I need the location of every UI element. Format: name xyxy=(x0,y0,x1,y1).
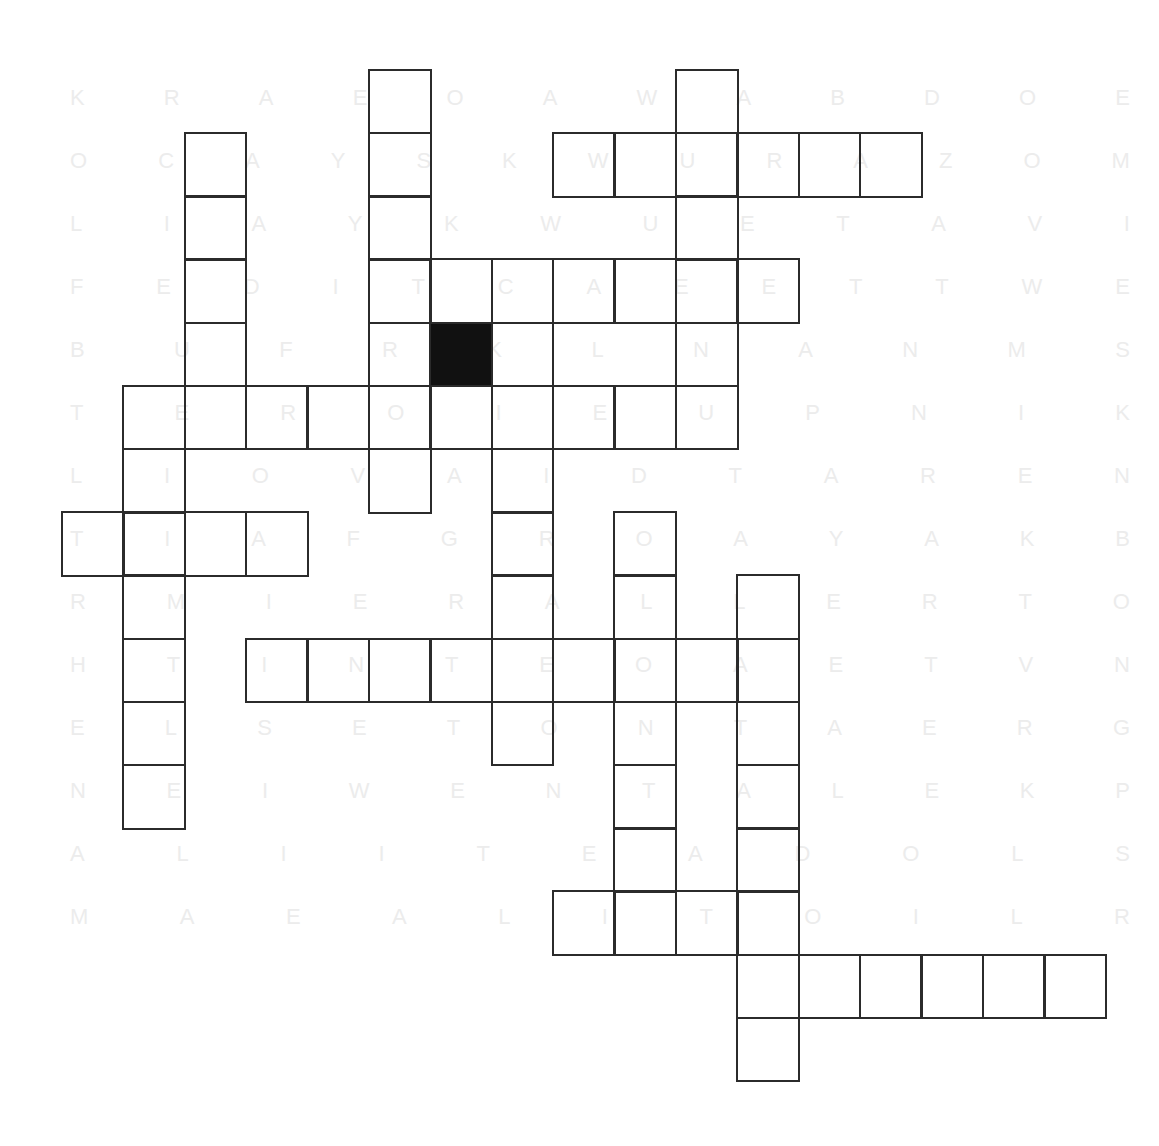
crossword-cell[interactable] xyxy=(736,764,800,830)
crossword-cell[interactable] xyxy=(675,132,739,198)
crossword-cell[interactable] xyxy=(491,385,555,451)
crossword-cell[interactable] xyxy=(184,195,248,261)
crossword-cell[interactable] xyxy=(306,638,370,704)
crossword-cell[interactable] xyxy=(736,954,800,1020)
crossword-cell[interactable] xyxy=(859,132,923,198)
crossword-cell[interactable] xyxy=(368,638,432,704)
crossword-cell[interactable] xyxy=(491,574,555,640)
crossword-cell[interactable] xyxy=(736,574,800,640)
crossword-cell[interactable] xyxy=(122,448,186,514)
crossword-cell[interactable] xyxy=(306,385,370,451)
crossword-cell[interactable] xyxy=(245,385,309,451)
crossword-cell[interactable] xyxy=(368,132,432,198)
crossword-cell[interactable] xyxy=(675,890,739,956)
crossword-cell[interactable] xyxy=(675,638,739,704)
crossword-cell[interactable] xyxy=(122,638,186,704)
crossword-cell[interactable] xyxy=(675,258,739,324)
crossword-cell[interactable] xyxy=(736,638,800,704)
crossword-cell[interactable] xyxy=(368,385,432,451)
crossword-cell[interactable] xyxy=(122,385,186,451)
crossword-cell[interactable] xyxy=(859,954,923,1020)
crossword-cell[interactable] xyxy=(613,132,677,198)
crossword-cell[interactable] xyxy=(491,511,555,577)
crossword-cell[interactable] xyxy=(184,511,248,577)
crossword-cell[interactable] xyxy=(613,638,677,704)
crossword-cell[interactable] xyxy=(368,69,432,135)
crossword-cell[interactable] xyxy=(491,322,555,388)
crossword-cell[interactable] xyxy=(613,764,677,830)
crossword-cell[interactable] xyxy=(613,890,677,956)
crossword-cell[interactable] xyxy=(736,890,800,956)
crossword-cell[interactable] xyxy=(675,322,739,388)
crossword-cell[interactable] xyxy=(552,638,616,704)
crossword-cell[interactable] xyxy=(61,511,125,577)
crossword-cell[interactable] xyxy=(552,890,616,956)
crossword-cell[interactable] xyxy=(429,638,493,704)
crossword-cell[interactable] xyxy=(982,954,1046,1020)
crossword-cell[interactable] xyxy=(368,258,432,324)
crossword-cell[interactable] xyxy=(368,322,432,388)
crossword-cell[interactable] xyxy=(736,132,800,198)
crossword-cell[interactable] xyxy=(122,574,186,640)
crossword-cell[interactable] xyxy=(552,385,616,451)
crossword-cell[interactable] xyxy=(736,701,800,767)
crossword-cell[interactable] xyxy=(245,638,309,704)
crossword-grid xyxy=(0,0,1159,1146)
crossword-cell[interactable] xyxy=(552,132,616,198)
crossword-cell[interactable] xyxy=(613,511,677,577)
crossword-cell[interactable] xyxy=(675,195,739,261)
crossword-black-cell xyxy=(429,322,493,388)
crossword-cell[interactable] xyxy=(736,827,800,893)
crossword-cell[interactable] xyxy=(675,385,739,451)
crossword-cell[interactable] xyxy=(613,827,677,893)
crossword-cell[interactable] xyxy=(491,258,555,324)
crossword-cell[interactable] xyxy=(613,701,677,767)
crossword-cell[interactable] xyxy=(368,448,432,514)
crossword-cell[interactable] xyxy=(491,638,555,704)
crossword-cell[interactable] xyxy=(491,701,555,767)
crossword-cell[interactable] xyxy=(368,195,432,261)
crossword-cell[interactable] xyxy=(1043,954,1107,1020)
crossword-cell[interactable] xyxy=(184,385,248,451)
crossword-cell[interactable] xyxy=(122,701,186,767)
crossword-cell[interactable] xyxy=(245,511,309,577)
crossword-cell[interactable] xyxy=(122,764,186,830)
crossword-cell[interactable] xyxy=(798,132,862,198)
crossword-cell[interactable] xyxy=(613,385,677,451)
crossword-cell[interactable] xyxy=(736,1017,800,1083)
crossword-cell[interactable] xyxy=(613,258,677,324)
crossword-cell[interactable] xyxy=(429,258,493,324)
crossword-cell[interactable] xyxy=(552,258,616,324)
crossword-cell[interactable] xyxy=(920,954,984,1020)
crossword-cell[interactable] xyxy=(184,322,248,388)
crossword-cell[interactable] xyxy=(122,511,186,577)
crossword-cell[interactable] xyxy=(429,385,493,451)
crossword-cell[interactable] xyxy=(184,258,248,324)
crossword-cell[interactable] xyxy=(675,69,739,135)
crossword-cell[interactable] xyxy=(736,258,800,324)
crossword-cell[interactable] xyxy=(491,448,555,514)
crossword-cell[interactable] xyxy=(184,132,248,198)
crossword-cell[interactable] xyxy=(613,574,677,640)
crossword-cell[interactable] xyxy=(798,954,862,1020)
